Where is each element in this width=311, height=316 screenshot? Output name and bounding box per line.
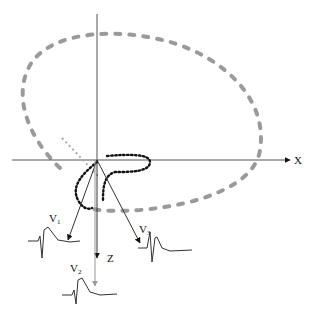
vcg-diagram: X Z V1 V2 V3 xyxy=(0,0,311,316)
v2-waveform xyxy=(62,278,117,304)
v2-label: V2 xyxy=(70,262,82,276)
v1-label: V1 xyxy=(49,212,61,226)
v1-vector xyxy=(68,160,97,240)
x-axis-label: X xyxy=(294,154,302,166)
large-loop xyxy=(23,34,261,211)
v1-waveform xyxy=(28,227,80,258)
z-axis-label: Z xyxy=(107,252,114,264)
